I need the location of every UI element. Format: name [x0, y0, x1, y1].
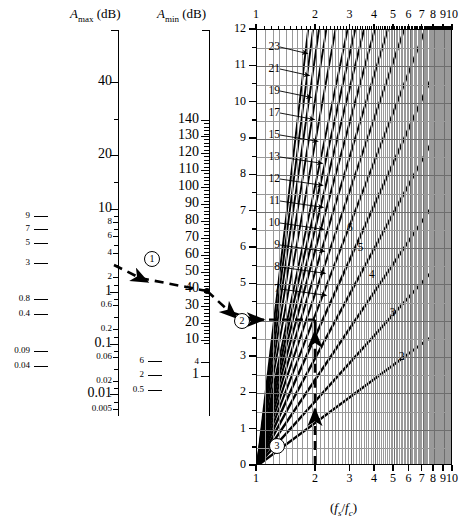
amin-tick	[201, 306, 209, 307]
amin-minor-tick	[204, 245, 209, 246]
amax-aux-tick	[34, 243, 48, 244]
order-label: 11	[258, 194, 280, 206]
amin-tick-label: 40	[161, 280, 199, 296]
amax-minor-tick	[114, 299, 118, 300]
amin-tick	[201, 362, 209, 363]
x-tick-label-bottom: 2	[304, 471, 326, 486]
amax-aux-label: 5	[0, 237, 30, 247]
x-axis-minor-tick	[391, 26, 392, 30]
x-axis-minor-tick	[337, 26, 338, 30]
amax-tick	[113, 222, 118, 223]
amax-axis-title: Amax (dB)	[70, 6, 121, 24]
amax-aux-label: 0.8	[0, 293, 30, 303]
amin-tick-label: 50	[161, 263, 199, 279]
amin-minor-tick	[204, 130, 209, 131]
amin-tick-label: 10	[161, 331, 199, 347]
x-axis-minor-tick	[420, 26, 421, 30]
x-axis-minor-tick	[352, 26, 353, 30]
y-axis-tick	[252, 410, 256, 411]
x-axis-minor-tick	[365, 26, 366, 30]
x-tick-label-top: 10	[441, 7, 463, 22]
grid-line-vertical	[383, 30, 384, 464]
amin-tick-label: 90	[161, 195, 199, 211]
grid-line-horizontal-major	[257, 430, 451, 431]
x-axis-minor-tick	[301, 26, 302, 30]
grid-line-vertical	[297, 30, 298, 464]
amin-tick	[201, 170, 209, 171]
amin-minor-tick	[204, 231, 209, 232]
y-axis-tick	[252, 265, 256, 266]
grid-line-horizontal-major	[257, 175, 451, 176]
amax-tick-label: 40	[64, 73, 112, 89]
y-axis-tick	[249, 355, 256, 356]
y-axis-tick	[249, 65, 256, 66]
grid-line-vertical	[338, 30, 339, 464]
grid-line-vertical	[302, 30, 303, 464]
x-axis-minor-tick	[362, 26, 363, 30]
order-label: 12	[258, 172, 280, 184]
x-axis-minor-tick	[290, 26, 291, 30]
amax-tick	[113, 381, 118, 382]
grid-line-horizontal	[257, 339, 451, 340]
amin-tick	[201, 289, 209, 290]
x-axis-tick	[349, 24, 351, 30]
amin-minor-tick	[204, 156, 209, 157]
amax-aux-tick	[34, 216, 48, 217]
y-axis-tick	[252, 192, 256, 193]
grid-line-vertical	[335, 30, 336, 464]
x-axis-tick	[314, 24, 316, 30]
y-axis-tick	[252, 83, 256, 84]
y-axis-tick	[252, 374, 256, 375]
amin-tick	[201, 340, 209, 341]
amin-tick-label: 100	[161, 178, 199, 194]
amin-minor-tick	[204, 127, 209, 128]
amin-minor-tick	[204, 184, 209, 185]
grid-line-vertical-major	[444, 30, 445, 464]
y-axis-tick	[249, 428, 256, 429]
y-tick-label: 10	[220, 94, 246, 109]
x-axis-minor-tick	[355, 26, 356, 30]
amax-tick-label: 20	[64, 146, 112, 162]
grid-line-vertical	[328, 30, 329, 464]
amax-minor-tick	[114, 265, 118, 266]
y-axis-tick	[252, 119, 256, 120]
grid-line-horizontal	[257, 85, 451, 86]
x-axis-minor-tick	[431, 26, 432, 30]
grid-line-horizontal-major	[257, 139, 451, 140]
x-axis-minor-tick	[360, 26, 361, 30]
grid-line-horizontal	[257, 194, 451, 195]
y-tick-label: 1	[220, 421, 246, 436]
amin-minor-tick	[204, 282, 209, 283]
grid-line-vertical	[381, 30, 382, 464]
amax-minor-tick	[114, 182, 118, 183]
x-axis-minor-tick	[384, 26, 385, 30]
amin-top-cap	[202, 30, 210, 31]
x-axis-minor-tick	[334, 26, 335, 30]
y-axis-tick	[252, 446, 256, 447]
amin-aux-tick	[148, 361, 162, 362]
grid-line-horizontal-major	[257, 284, 451, 285]
grid-line-vertical	[345, 30, 346, 464]
grid-line-vertical	[292, 30, 293, 464]
amin-minor-tick	[204, 320, 209, 321]
amin-minor-tick	[204, 228, 209, 229]
order-label: 23	[258, 40, 280, 52]
order-grid	[256, 29, 452, 465]
grid-line-horizontal-major	[257, 393, 451, 394]
amax-tick-label: 0.005	[64, 403, 112, 413]
grid-line-vertical	[385, 30, 386, 464]
amin-minor-tick	[204, 316, 209, 317]
grid-line-vertical-major	[394, 30, 395, 464]
amax-tick-label: 2	[64, 271, 112, 281]
amax-aux-label: 3	[0, 257, 30, 267]
grid-line-horizontal	[257, 266, 451, 267]
amin-aux-label: 2	[112, 369, 144, 379]
amax-minor-tick	[114, 229, 118, 230]
order-label-inline: 6	[347, 221, 353, 233]
grid-line-vertical	[379, 30, 380, 464]
amin-minor-tick	[204, 134, 209, 135]
amin-minor-tick	[204, 180, 209, 181]
amax-tick-label: 6	[64, 230, 112, 240]
y-axis-tick	[249, 28, 256, 29]
amax-aux-tick	[34, 314, 48, 315]
